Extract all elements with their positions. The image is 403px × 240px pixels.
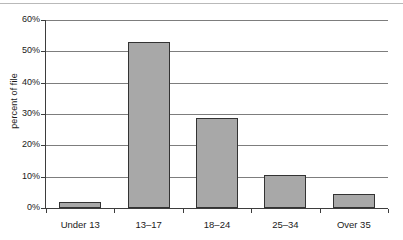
x-tick-mark [388,209,389,213]
y-tick-label-slot: 60% [0,15,40,24]
gridline [46,114,388,115]
y-tick-label: 20% [2,140,40,149]
y-tick-label-slot: 10% [0,172,40,181]
y-tick-mark [41,145,46,146]
y-tick-label-slot: 30% [0,109,40,118]
x-tick-mark [46,209,47,213]
bar [264,175,306,208]
x-axis-label: 25–34 [251,219,319,230]
x-tick-mark [320,209,321,213]
y-tick-label: 10% [2,172,40,181]
y-tick-mark [41,177,46,178]
y-tick-mark [41,20,46,21]
y-tick-label-slot: 20% [0,140,40,149]
x-axis-label: 18–24 [183,219,251,230]
x-axis-line [46,208,388,209]
y-tick-label-slot: 50% [0,46,40,55]
y-tick-label: 50% [2,46,40,55]
x-tick-mark [114,209,115,213]
gridline [46,51,388,52]
x-tick-mark [251,209,252,213]
bar [196,118,238,208]
gridline [46,83,388,84]
bar [333,194,375,208]
plot-area [46,20,388,208]
gridline [46,20,388,21]
y-tick-mark [41,114,46,115]
bar-chart: percent of file 60%50%40%30%20%10%0% Und… [0,0,403,240]
x-axis-label: Over 35 [320,219,388,230]
bar [59,202,101,208]
y-tick-mark [41,83,46,84]
bar [128,42,170,208]
y-tick-label-slot: 40% [0,78,40,87]
x-axis-label: 13–17 [114,219,182,230]
y-tick-label-slot: 0% [0,203,40,212]
scan-artifact-line [0,3,403,4]
y-tick-label: 40% [2,78,40,87]
x-axis-label: Under 13 [46,219,114,230]
y-axis-title: percent of file [9,61,19,141]
y-tick-label: 0% [2,203,40,212]
y-tick-label: 60% [2,15,40,24]
x-tick-mark [183,209,184,213]
y-tick-label: 30% [2,109,40,118]
y-tick-mark [41,51,46,52]
